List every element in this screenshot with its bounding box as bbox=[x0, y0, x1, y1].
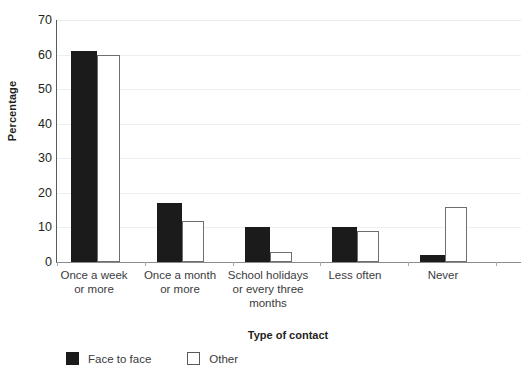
x-axis-tick bbox=[408, 262, 409, 266]
x-axis-tick bbox=[145, 262, 146, 266]
y-axis-tick-label: 40 bbox=[38, 117, 52, 130]
category-label-line: months bbox=[216, 296, 320, 310]
plot-area: 010203040506070 bbox=[56, 20, 521, 263]
y-axis-tick-label: 0 bbox=[45, 256, 52, 269]
legend-item[interactable]: Face to face bbox=[66, 352, 151, 365]
bar-chart: Percentage 010203040506070 Once a weekor… bbox=[0, 0, 531, 385]
x-axis-tick bbox=[57, 262, 58, 266]
y-axis-tick-label: 20 bbox=[38, 187, 52, 200]
legend-label: Other bbox=[209, 353, 238, 365]
x-axis-tick bbox=[320, 262, 321, 266]
bar-other bbox=[445, 207, 467, 262]
y-axis-tick-label: 50 bbox=[38, 83, 52, 96]
legend-label: Face to face bbox=[88, 353, 151, 365]
y-axis-tick-label: 70 bbox=[38, 14, 52, 27]
y-axis-tick-label: 10 bbox=[38, 221, 52, 234]
legend-swatch-dark-icon bbox=[66, 352, 79, 365]
legend-swatch-light-icon bbox=[187, 352, 200, 365]
category-label-line: or every three bbox=[216, 282, 320, 296]
y-axis-title: Percentage bbox=[6, 66, 18, 156]
x-axis-category-labels: Once a weekor moreOnce a monthor moreSch… bbox=[56, 268, 520, 320]
x-axis-tick bbox=[233, 262, 234, 266]
category-label-line: Never bbox=[391, 268, 495, 282]
legend: Face to faceOther bbox=[56, 352, 520, 365]
x-axis-category-label: Never bbox=[391, 268, 495, 282]
legend-item[interactable]: Other bbox=[187, 352, 238, 365]
y-axis-tick-label: 60 bbox=[38, 48, 52, 61]
x-axis-title: Type of contact bbox=[56, 329, 520, 341]
y-axis-tick-label: 30 bbox=[38, 152, 52, 165]
bars-layer bbox=[57, 20, 521, 262]
bar-group bbox=[57, 20, 521, 262]
x-axis-tick bbox=[496, 262, 497, 266]
bar-face-to-face bbox=[420, 255, 445, 262]
